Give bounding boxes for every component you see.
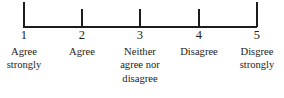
scale-tick-4 — [198, 9, 200, 27]
scale-point-number: 5 — [219, 28, 284, 43]
scale-point-5[interactable]: 5 Disgree strongly — [219, 28, 284, 72]
scale-tick-1 — [23, 2, 25, 27]
scale-tick-3 — [139, 9, 141, 27]
scale-tick-2 — [81, 9, 83, 27]
likert-scale-figure: 1 Agree strongly 2 Agree 3 Neither agree… — [0, 0, 284, 98]
scale-points: 1 Agree strongly 2 Agree 3 Neither agree… — [0, 28, 284, 98]
scale-tick-5 — [256, 2, 258, 27]
scale-point-label: Disgree strongly — [219, 45, 284, 72]
